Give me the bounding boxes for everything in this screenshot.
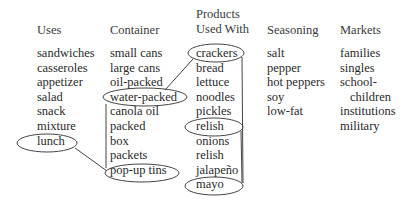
seasoning-item: soy: [267, 90, 325, 105]
products-item: onions: [196, 134, 238, 149]
header-uses: Uses: [37, 23, 61, 38]
markets-item: institutions: [340, 104, 396, 119]
uses-item: appetizer: [37, 75, 95, 90]
products-item: relish: [196, 148, 238, 163]
products-item: lettuce: [196, 75, 238, 90]
markets-item: singles: [340, 61, 396, 76]
products-item-circled: crackers: [196, 46, 238, 61]
seasoning-item: low-fat: [267, 104, 325, 119]
column-markets: families singles school- children instit…: [340, 46, 396, 134]
container-item-circled: pop-up tins: [110, 163, 177, 178]
uses-item: sandwiches: [37, 46, 95, 61]
markets-item: school-: [340, 75, 396, 90]
container-item: large cans: [110, 61, 177, 76]
products-item-circled: mayo: [196, 177, 238, 192]
seasoning-item: pepper: [267, 61, 325, 76]
container-item: oil-packed: [110, 75, 177, 90]
container-item: canola oil: [110, 104, 177, 119]
seasoning-item: hot peppers: [267, 75, 325, 90]
line-relish-mayo: [241, 131, 242, 183]
seasoning-item: salt: [267, 46, 325, 61]
container-item: box: [110, 134, 177, 149]
uses-item: salad: [37, 90, 95, 105]
container-item: packets: [110, 148, 177, 163]
products-item: noodles: [196, 90, 238, 105]
header-container: Container: [110, 23, 159, 38]
line-crackers-mayo: [242, 57, 243, 183]
header-seasoning: Seasoning: [267, 23, 318, 38]
container-item: small cans: [110, 46, 177, 61]
header-products-line1: Products: [196, 7, 240, 22]
column-products: crackers bread lettuce noodles pickles r…: [196, 46, 238, 192]
column-container: small cans large cans oil-packed water-p…: [110, 46, 177, 177]
products-item: bread: [196, 61, 238, 76]
markets-item: children: [340, 90, 396, 105]
column-seasoning: salt pepper hot peppers soy low-fat: [267, 46, 325, 119]
container-item: packed: [110, 119, 177, 134]
container-item-circled: water-packed: [110, 90, 177, 105]
uses-item: casseroles: [37, 61, 95, 76]
uses-item: snack: [37, 104, 95, 119]
markets-item: military: [340, 119, 396, 134]
header-products-line2: Used With: [196, 22, 249, 37]
products-item: jalapeño: [196, 163, 238, 178]
markets-item: families: [340, 46, 396, 61]
products-item-circled: relish: [196, 119, 238, 134]
products-item: pickles: [196, 104, 238, 119]
header-markets: Markets: [340, 23, 381, 38]
line-lunch-pop-up-tins: [75, 148, 107, 171]
uses-item-circled: lunch: [37, 134, 95, 149]
column-uses: sandwiches casseroles appetizer salad sn…: [37, 46, 95, 148]
uses-item: mixture: [37, 119, 95, 134]
